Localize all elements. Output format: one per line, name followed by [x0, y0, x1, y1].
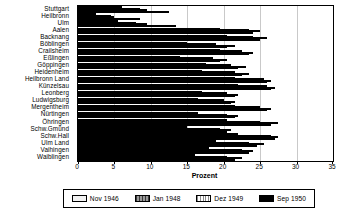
bar-group: [78, 48, 333, 55]
bar-group: [78, 69, 333, 76]
y-axis-label: Schw.Gmünd: [0, 125, 72, 132]
legend-swatch-icon: [135, 195, 150, 202]
bar-group: [78, 147, 333, 154]
y-axis-label: Schw.Hall: [0, 132, 72, 139]
bar-group: [78, 27, 333, 34]
y-axis-label: Eßlingen: [0, 54, 72, 61]
bar-group: [78, 154, 333, 161]
y-axis-label: Vaihingen: [0, 146, 72, 153]
legend-swatch-icon: [196, 195, 211, 202]
x-tick-label: 20: [219, 163, 226, 171]
y-axis-label: Ulm Land: [0, 139, 72, 146]
y-axis-label: Böblingen: [0, 40, 72, 47]
x-tick-label: 30: [292, 163, 299, 171]
y-axis-label: Backnang: [0, 33, 72, 40]
y-axis-label: Leonberg: [0, 89, 72, 96]
x-tick-label: 10: [146, 163, 153, 171]
y-axis-label: Künzelsau: [0, 82, 72, 89]
legend-item[interactable]: Nov 1946: [72, 195, 119, 202]
bar-group: [78, 41, 333, 48]
legend-swatch-icon: [259, 195, 274, 202]
bar-group: [78, 98, 333, 105]
x-tick-label: 25: [256, 163, 263, 171]
x-tick-label: 0: [75, 163, 79, 171]
legend-swatch-icon: [72, 195, 87, 202]
y-axis-label: Waiblingen: [0, 153, 72, 160]
x-tick-label: 5: [112, 163, 116, 171]
bar-group: [78, 55, 333, 62]
chart-legend: Nov 1946Jan 1948Dez 1949Sep 1950: [63, 189, 315, 208]
legend-label: Jan 1948: [153, 195, 181, 202]
plot-area: [77, 5, 334, 162]
bar-group: [78, 34, 333, 41]
legend-label: Nov 1946: [90, 195, 119, 202]
bar-group: [78, 126, 333, 133]
bar-group: [78, 140, 333, 147]
bar-chart: StuttgartHeilbronnUlmAalenBacknangBöblin…: [0, 0, 342, 214]
y-axis-label: Göppingen: [0, 61, 72, 68]
bar-group: [78, 13, 333, 20]
plot-inner: [78, 6, 333, 161]
legend-item[interactable]: Sep 1950: [259, 195, 306, 202]
legend-item[interactable]: Dez 1949: [196, 195, 243, 202]
bar-group: [78, 112, 333, 119]
y-axis-label: Aalen: [0, 26, 72, 33]
y-axis-label: Nürtingen: [0, 110, 72, 117]
bar-group: [78, 105, 333, 112]
y-axis-category-labels: StuttgartHeilbronnUlmAalenBacknangBöblin…: [0, 5, 72, 160]
bar-group: [78, 84, 333, 91]
bar-group: [78, 62, 333, 69]
bar-group: [78, 20, 333, 27]
y-axis-label: Öhringen: [0, 118, 72, 125]
bar: [78, 159, 235, 161]
legend-item[interactable]: Jan 1948: [135, 195, 181, 202]
bar-group: [78, 119, 333, 126]
y-axis-label: Crailsheim: [0, 47, 72, 54]
y-axis-label: Heidenheim: [0, 68, 72, 75]
bar-group: [78, 91, 333, 98]
y-axis-label: Stuttgart: [0, 5, 72, 12]
bar-group: [78, 133, 333, 140]
x-tick-label: 15: [183, 163, 190, 171]
x-tick-label: 35: [328, 163, 335, 171]
legend-label: Dez 1949: [214, 195, 243, 202]
y-axis-label: Ulm: [0, 19, 72, 26]
legend-label: Sep 1950: [277, 195, 306, 202]
bar-group: [78, 76, 333, 83]
x-axis-title: Prozent: [77, 172, 332, 179]
y-axis-label: Heilbronn: [0, 12, 72, 19]
y-axis-label: Mergentheim: [0, 103, 72, 110]
bar-group: [78, 6, 333, 13]
y-axis-label: Heilbronn Land: [0, 75, 72, 82]
y-axis-label: Ludwigsburg: [0, 96, 72, 103]
